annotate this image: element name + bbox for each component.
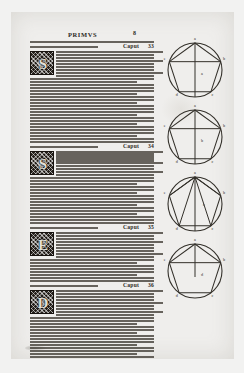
text-line — [56, 305, 154, 307]
text-line — [30, 78, 154, 80]
text-line — [30, 329, 154, 331]
ornamental-initial: S — [30, 51, 54, 75]
vertex-label: b — [223, 123, 225, 128]
figure-center-label: c — [203, 202, 205, 207]
text-line — [56, 290, 163, 292]
text-line — [56, 72, 163, 74]
text-line — [56, 253, 163, 255]
text-line — [30, 114, 137, 116]
text-line — [30, 135, 137, 137]
text-line — [30, 332, 137, 334]
text-line — [56, 156, 154, 158]
figure-center-label: d — [201, 272, 204, 277]
initial-block: E — [30, 232, 154, 258]
running-head-title: PRIMVS — [68, 31, 97, 38]
ornamental-initial: E — [30, 232, 54, 256]
geometric-figure: abcdea — [159, 38, 231, 102]
initial-letter: S — [31, 52, 55, 76]
text-line — [30, 317, 154, 319]
text-line — [56, 174, 154, 176]
vertex-label: c — [212, 226, 214, 231]
caput-heading-row: Caput36 — [30, 283, 154, 289]
text-line — [30, 186, 154, 188]
caput-heading: Caput34 — [123, 143, 154, 149]
text-line — [56, 162, 163, 164]
figure-drawing: abcded — [159, 239, 231, 303]
text-line — [56, 165, 154, 167]
text-line — [30, 219, 154, 221]
text-line — [30, 87, 154, 89]
text-line — [56, 311, 163, 313]
text-line — [56, 256, 154, 258]
initial-block: S — [30, 51, 154, 77]
text-line — [30, 210, 154, 212]
text-line — [30, 90, 154, 92]
text-line — [30, 338, 154, 340]
text-line — [56, 232, 163, 234]
text-line — [30, 198, 154, 200]
running-head: PRIMVS — [30, 31, 155, 40]
vertex-label: d — [176, 92, 179, 97]
text-line — [56, 302, 163, 304]
vertex-label: e — [164, 257, 166, 262]
caput-number: 33 — [148, 43, 154, 49]
text-line — [30, 189, 154, 191]
caput-label: Caput — [123, 224, 139, 230]
folio-number: 8 — [133, 30, 136, 36]
text-line — [30, 129, 154, 131]
text-line — [30, 177, 154, 179]
text-line — [30, 102, 137, 104]
vertex-label: d — [176, 159, 179, 164]
scanned-page: PRIMVS 8 Caput33SCaput34SCaput35ECaput36… — [0, 0, 244, 373]
text-line — [30, 126, 154, 128]
text-line — [56, 54, 154, 56]
text-line — [30, 271, 154, 273]
geometric-figure: abcdec — [159, 172, 231, 236]
text-line — [30, 353, 137, 355]
text-line — [30, 108, 154, 110]
text-line — [56, 159, 154, 161]
vertex-label: a — [194, 38, 196, 41]
text-line — [30, 183, 137, 185]
text-line — [30, 262, 137, 264]
caput-heading-row: Caput35 — [30, 225, 154, 231]
figure-drawing: abcdec — [159, 172, 231, 236]
text-line — [56, 299, 154, 301]
text-line — [30, 207, 154, 209]
initial-block: S — [30, 151, 154, 177]
initial-letter: S — [31, 152, 55, 176]
vertex-label: e — [164, 123, 166, 128]
text-line — [56, 308, 154, 310]
text-line — [30, 265, 154, 267]
caput-number: 34 — [148, 143, 154, 149]
text-line — [30, 105, 154, 107]
vertex-label: c — [212, 159, 214, 164]
initial-letter: D — [31, 291, 55, 315]
paragraph: Caput34S — [30, 144, 154, 225]
text-line — [30, 204, 137, 206]
text-line — [56, 314, 154, 316]
vertex-label: d — [176, 226, 179, 231]
text-line — [56, 244, 154, 246]
caput-number: 36 — [148, 282, 154, 288]
ornamental-initial: D — [30, 290, 54, 314]
vertex-label: c — [212, 293, 214, 298]
caput-heading-row: Caput33 — [30, 44, 154, 50]
caput-label: Caput — [123, 43, 139, 49]
text-line — [56, 60, 163, 62]
text-line — [30, 111, 154, 113]
caput-heading: Caput33 — [123, 43, 154, 49]
text-line — [56, 151, 163, 153]
geometric-figure: abcdeb — [159, 105, 231, 169]
text-line — [56, 235, 154, 237]
text-line — [30, 146, 98, 148]
caput-heading-row: Caput34 — [30, 144, 154, 150]
text-line — [30, 138, 154, 140]
text-line — [30, 117, 154, 119]
text-line — [56, 75, 154, 77]
vertex-label: a — [194, 239, 196, 242]
text-line — [30, 132, 154, 134]
figure-center-label: b — [201, 138, 203, 143]
text-line — [56, 57, 154, 59]
figure-center-label: a — [201, 71, 203, 76]
